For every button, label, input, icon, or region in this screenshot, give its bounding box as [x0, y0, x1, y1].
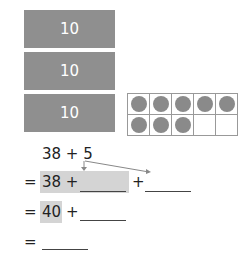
answer-blank[interactable] — [42, 249, 88, 250]
line2-left: 40 — [42, 203, 61, 221]
answer-blank[interactable] — [80, 191, 126, 192]
split-arrows-icon — [0, 0, 251, 268]
answer-blank[interactable] — [80, 220, 126, 221]
equals-sign: = — [24, 173, 37, 191]
answer-blank[interactable] — [145, 191, 191, 192]
equals-sign: = — [24, 233, 37, 251]
line1-left: 38 + — [42, 173, 78, 191]
plus-sign: + — [132, 173, 145, 191]
plus-sign: + — [66, 203, 79, 221]
equals-sign: = — [24, 203, 37, 221]
